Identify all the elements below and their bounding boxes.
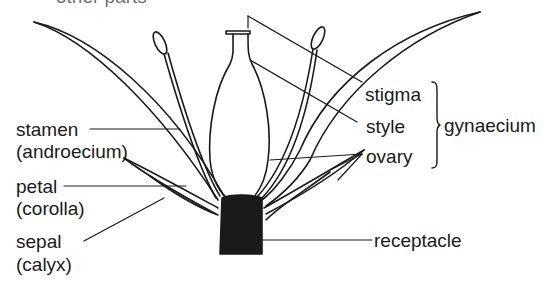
gynaecium-brace	[432, 82, 440, 168]
label-corolla: (corolla)	[16, 198, 85, 219]
receptacle	[220, 195, 262, 254]
label-calyx: (calyx)	[16, 254, 72, 275]
label-gynaecium: gynaecium	[444, 115, 536, 136]
label-receptacle: receptacle	[374, 230, 462, 251]
label-stamen: stamen	[16, 119, 78, 140]
label-stigma: stigma	[365, 84, 421, 105]
petal-left	[124, 158, 218, 208]
sepal-left-long	[34, 22, 224, 200]
label-sepal: sepal	[16, 231, 61, 252]
sepal-right-long	[262, 12, 480, 206]
stamen-right	[258, 25, 328, 198]
pistil	[210, 31, 270, 197]
label-style: style	[366, 116, 405, 137]
label-petal: petal	[16, 176, 57, 197]
label-ovary: ovary	[366, 146, 412, 167]
label-androecium: (androecium)	[16, 141, 128, 162]
